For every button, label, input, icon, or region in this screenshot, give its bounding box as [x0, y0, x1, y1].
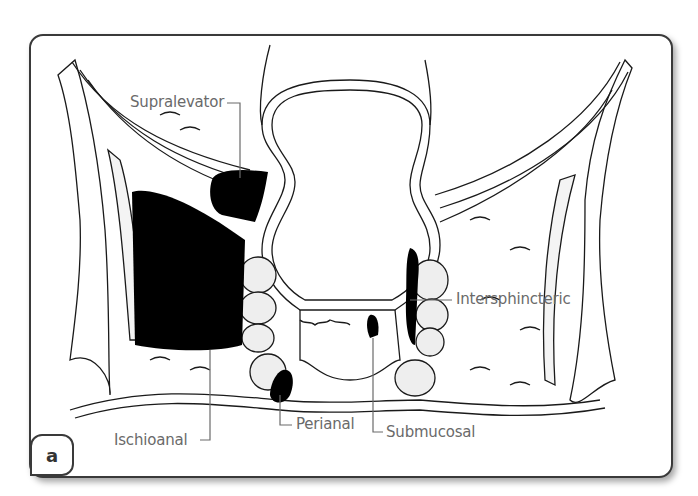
supralevator-abscess [210, 170, 268, 222]
panel-label-badge: a [30, 434, 74, 476]
left-pelvic-bone [58, 60, 110, 395]
submucosal-abscess [367, 315, 379, 338]
intersphincteric-abscess [406, 248, 419, 345]
intersphincteric-label: Intersphincteric [456, 290, 570, 308]
supralevator-label: Supralevator [130, 93, 224, 111]
submucosal-label: Submucosal [386, 423, 475, 441]
perianal-label: Perianal [296, 415, 355, 433]
ischioanal-label: Ischioanal [114, 431, 187, 449]
